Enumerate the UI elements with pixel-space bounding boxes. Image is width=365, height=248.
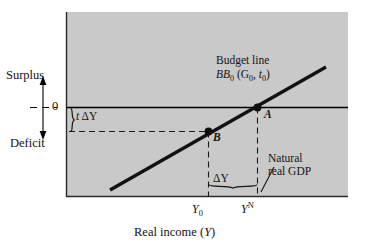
budget-paren-open: (G: [234, 68, 249, 80]
budget-line-label-line1: Budget line: [216, 54, 269, 66]
x-tick-label-y0: Y0: [192, 203, 203, 219]
delta-y-label: ΔY: [213, 172, 229, 185]
budget-line-label: Budget line BB0 (G0, t0): [216, 54, 270, 84]
delta-y-text: ΔY: [213, 172, 229, 184]
natural-real-gdp-line1: Natural: [268, 152, 302, 164]
budget-bb: BB: [216, 68, 230, 80]
figure-root: Surplus Deficit 0 t ΔY Budget line BB0 (…: [0, 0, 365, 248]
point-b-marker: [205, 128, 213, 136]
natural-real-gdp-label: Natural real GDP: [268, 152, 311, 178]
point-b-label: B: [213, 131, 221, 144]
x-axis-title-close: ): [211, 225, 215, 239]
x-tick-y0-sub: 0: [199, 208, 203, 218]
x-tick-yn-sup: N: [248, 200, 254, 210]
point-a-marker: [254, 104, 262, 112]
x-tick-label-yn: YN: [241, 201, 254, 216]
x-tick-y0-base: Y: [192, 202, 199, 216]
budget-paren-close: ): [266, 68, 270, 80]
y-axis-surplus-label: Surplus: [6, 68, 44, 82]
budget-line-label-line2: BB0 (G0, t0): [216, 68, 270, 84]
y-axis-zero-label: 0: [52, 99, 58, 113]
natural-real-gdp-line2: real GDP: [268, 165, 311, 177]
x-tick-yn-base: Y: [241, 202, 248, 216]
t-delta-y-delta: ΔY: [82, 110, 98, 122]
t-delta-y-label: t ΔY: [76, 110, 97, 123]
x-axis-title-static: Real income (: [134, 225, 204, 239]
x-axis-title: Real income (Y): [134, 225, 215, 239]
y-axis-deficit-label: Deficit: [10, 136, 45, 150]
point-a-label: A: [264, 108, 272, 121]
budget-line-diagram: [0, 0, 365, 248]
